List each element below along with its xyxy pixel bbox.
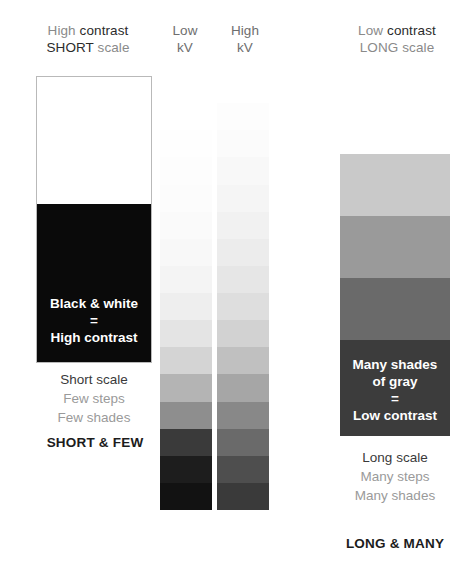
low-kv-step-13 bbox=[160, 402, 212, 429]
high-contrast-caption-line3: Few shades bbox=[26, 408, 162, 427]
low-kv-step-6 bbox=[160, 212, 212, 239]
header-right-line2: LONG scale bbox=[327, 39, 467, 56]
header-right-line2-word1: LONG bbox=[360, 40, 399, 55]
header-lowkv-line2: kV bbox=[152, 39, 218, 56]
low-contrast-panel: Many shades of gray = Low contrast bbox=[340, 154, 450, 436]
header-highkv-line2: kV bbox=[212, 39, 278, 56]
high-kv-step-11 bbox=[217, 347, 269, 374]
header-low-contrast-long-scale: Low contrast LONG scale bbox=[327, 22, 467, 56]
low-contrast-overlay-label: Many shades of gray = Low contrast bbox=[340, 356, 450, 424]
low-contrast-overlay-line3: = bbox=[340, 390, 450, 407]
high-kv-step-6 bbox=[217, 212, 269, 239]
high-contrast-caption-line1: Short scale bbox=[26, 370, 162, 389]
low-kv-step-1 bbox=[160, 76, 212, 103]
low-kv-step-12 bbox=[160, 374, 212, 401]
high-kv-step-16 bbox=[217, 483, 269, 510]
high-kv-step-10 bbox=[217, 320, 269, 347]
high-contrast-overlay-line1: Black & white bbox=[37, 295, 151, 312]
high-kv-step-15 bbox=[217, 456, 269, 483]
header-left-line1: High contrast bbox=[18, 22, 158, 39]
low-contrast-caption-line3: Many shades bbox=[330, 486, 460, 505]
low-contrast-summary: LONG & MANY bbox=[322, 536, 468, 551]
low-kv-step-14 bbox=[160, 429, 212, 456]
low-contrast-overlay-line2: of gray bbox=[340, 373, 450, 390]
step-wedge-low-kv bbox=[160, 76, 212, 510]
header-low-kv: Low kV bbox=[152, 22, 218, 56]
low-kv-step-5 bbox=[160, 185, 212, 212]
low-kv-step-9 bbox=[160, 293, 212, 320]
high-kv-step-8 bbox=[217, 266, 269, 293]
high-kv-step-9 bbox=[217, 293, 269, 320]
high-contrast-caption-line2: Few steps bbox=[26, 389, 162, 408]
high-contrast-black-half: Black & white = High contrast bbox=[37, 204, 151, 362]
header-left-line2-word1: SHORT bbox=[46, 40, 93, 55]
high-contrast-white-half bbox=[37, 77, 151, 204]
high-contrast-overlay-label: Black & white = High contrast bbox=[37, 295, 151, 346]
high-kv-step-3 bbox=[217, 130, 269, 157]
high-contrast-overlay-line3: High contrast bbox=[37, 329, 151, 346]
header-right-line1-word1: Low bbox=[358, 23, 383, 38]
high-kv-step-12 bbox=[217, 374, 269, 401]
high-kv-step-7 bbox=[217, 239, 269, 266]
low-contrast-caption-line1: Long scale bbox=[330, 448, 460, 467]
high-kv-step-13 bbox=[217, 402, 269, 429]
header-left-line1-word1: High bbox=[48, 23, 76, 38]
low-kv-step-3 bbox=[160, 130, 212, 157]
header-left-line2-word2: scale bbox=[94, 40, 130, 55]
low-kv-step-4 bbox=[160, 157, 212, 184]
low-contrast-band-1 bbox=[340, 154, 450, 216]
low-kv-step-16 bbox=[160, 483, 212, 510]
high-kv-step-2 bbox=[217, 103, 269, 130]
header-right-line1-word2: contrast bbox=[383, 23, 436, 38]
low-kv-step-10 bbox=[160, 320, 212, 347]
low-kv-step-7 bbox=[160, 239, 212, 266]
low-contrast-band-3 bbox=[340, 278, 450, 340]
step-wedge-high-kv bbox=[217, 76, 269, 510]
high-kv-step-4 bbox=[217, 157, 269, 184]
header-right-line1: Low contrast bbox=[327, 22, 467, 39]
low-contrast-band-2 bbox=[340, 216, 450, 278]
low-contrast-caption-line2: Many steps bbox=[330, 467, 460, 486]
header-right-line2-word2: scale bbox=[398, 40, 434, 55]
low-kv-step-2 bbox=[160, 103, 212, 130]
high-contrast-caption: Short scale Few steps Few shades bbox=[26, 370, 162, 427]
high-contrast-panel: Black & white = High contrast bbox=[36, 76, 152, 363]
high-kv-step-5 bbox=[217, 185, 269, 212]
low-contrast-caption: Long scale Many steps Many shades bbox=[330, 448, 460, 505]
header-left-line2: SHORT scale bbox=[18, 39, 158, 56]
low-contrast-overlay-line1: Many shades bbox=[340, 356, 450, 373]
high-kv-step-14 bbox=[217, 429, 269, 456]
low-kv-step-15 bbox=[160, 456, 212, 483]
header-lowkv-line1: Low bbox=[152, 22, 218, 39]
low-contrast-overlay-line4: Low contrast bbox=[340, 407, 450, 424]
low-kv-step-8 bbox=[160, 266, 212, 293]
high-kv-step-1 bbox=[217, 76, 269, 103]
high-contrast-overlay-line2: = bbox=[37, 312, 151, 329]
illustration-canvas: High contrast SHORT scale Low kV High kV… bbox=[0, 0, 475, 575]
header-left-line1-word2: contrast bbox=[76, 23, 129, 38]
high-contrast-summary: SHORT & FEW bbox=[22, 435, 168, 450]
low-kv-step-11 bbox=[160, 347, 212, 374]
header-highkv-line1: High bbox=[212, 22, 278, 39]
header-high-kv: High kV bbox=[212, 22, 278, 56]
header-high-contrast-short-scale: High contrast SHORT scale bbox=[18, 22, 158, 56]
